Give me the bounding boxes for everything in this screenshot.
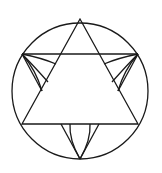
geometry-diagram bbox=[0, 0, 162, 173]
diagram-container bbox=[0, 0, 162, 173]
outer-circle bbox=[12, 23, 148, 159]
bottom-petal bbox=[61, 124, 99, 159]
